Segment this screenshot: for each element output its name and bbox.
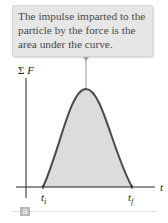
impulse-area <box>43 89 132 187</box>
t-final-label: tf <box>128 191 133 206</box>
force-time-graph <box>0 0 168 223</box>
pointer-arrow-icon <box>83 57 89 61</box>
x-axis-label: t <box>160 181 163 193</box>
t-initial-label: ti <box>41 191 46 206</box>
y-axis-label: Σ F <box>18 64 34 76</box>
panel-divider <box>12 211 157 212</box>
panel-label: a <box>20 207 30 216</box>
